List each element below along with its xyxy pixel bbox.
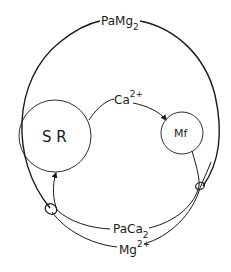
pamg2-label: PaMg2 [101,14,139,32]
left-junction-carrier [43,202,58,217]
paca2-label: PaCa2 [113,222,149,240]
pamg2-outer-loop [22,21,219,208]
paca2-path [53,151,199,229]
mf-label: Mf [174,127,188,140]
mg2-label: Mg2+ [119,239,150,257]
diagram-canvas: PaMg2 S R Mf Ca2+ PaCa2 Mg2+ [0,0,231,272]
sr-label: S R [42,128,67,146]
